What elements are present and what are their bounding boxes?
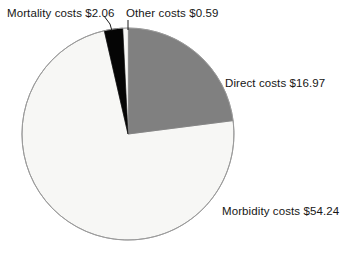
slice-label-morbidity: Morbidity costs $54.24 (222, 205, 339, 218)
slice-label-mortality: Mortality costs $2.06 (7, 7, 115, 20)
pie-chart: Mortality costs $2.06 Other costs $0.59 … (0, 0, 350, 258)
slice-label-other: Other costs $0.59 (126, 7, 218, 20)
pie-slice-direct[interactable] (128, 28, 233, 134)
slice-label-direct: Direct costs $16.97 (225, 77, 325, 90)
pie-chart-canvas (0, 0, 350, 258)
